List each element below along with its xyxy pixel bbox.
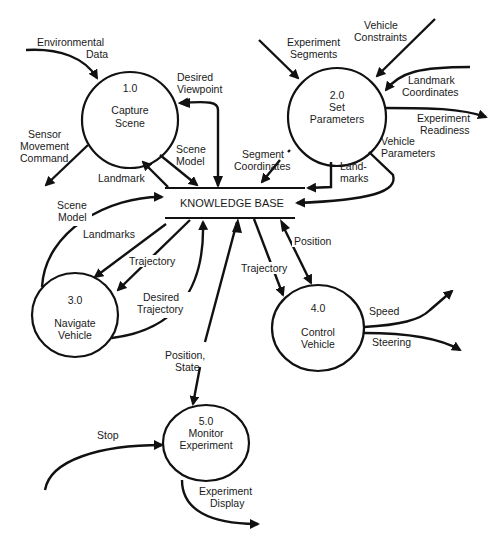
svg-text:Data: Data xyxy=(86,48,108,60)
svg-text:Model: Model xyxy=(58,211,87,223)
svg-text:Constraints: Constraints xyxy=(354,31,407,43)
svg-text:Coordinates: Coordinates xyxy=(234,160,291,172)
svg-text:Vehicle: Vehicle xyxy=(364,19,398,31)
process-name-line1: Set xyxy=(329,101,345,113)
process-name-line2: Vehicle xyxy=(58,329,92,341)
flow-scene-model-from-3: Scene Model xyxy=(42,197,162,287)
svg-text:Position: Position xyxy=(294,235,332,247)
svg-text:Desired: Desired xyxy=(177,71,213,83)
svg-text:Parameters: Parameters xyxy=(381,147,435,159)
knowledge-base-store[interactable]: KNOWLEDGE BASE xyxy=(165,188,305,218)
svg-text:Command: Command xyxy=(20,152,69,164)
svg-text:Display: Display xyxy=(210,497,245,509)
flow-vehicle-constraints: Vehicle Constraints xyxy=(354,19,435,76)
process-name-line2: Vehicle xyxy=(301,338,335,350)
svg-text:Vehicle: Vehicle xyxy=(381,135,415,147)
svg-text:Viewpoint: Viewpoint xyxy=(177,83,222,95)
svg-text:marks: marks xyxy=(340,172,369,184)
process-name-line2: Experiment xyxy=(179,439,232,451)
svg-text:Stop: Stop xyxy=(97,429,119,441)
process-name-line1: Navigate xyxy=(54,317,96,329)
process-name-line2: Scene xyxy=(115,117,145,129)
svg-text:Scene: Scene xyxy=(57,199,87,211)
process-name-line1: Capture xyxy=(111,104,149,116)
process-name-line2: Parameters xyxy=(310,113,364,125)
svg-text:Readiness: Readiness xyxy=(420,124,470,136)
flow-experiment-display: Experiment Display xyxy=(182,480,258,524)
svg-text:Trajectory: Trajectory xyxy=(137,303,184,315)
svg-text:Speed: Speed xyxy=(369,305,400,317)
process-4-control-vehicle[interactable]: 4.0 Control Vehicle xyxy=(272,285,364,371)
flow-sensor-movement-command: Sensor Movement Command xyxy=(20,128,88,185)
svg-text:Environmental: Environmental xyxy=(37,36,104,48)
flow-steering: Steering xyxy=(364,333,460,350)
svg-text:Landmarks: Landmarks xyxy=(83,228,135,240)
flow-stop: Stop xyxy=(45,429,162,490)
svg-text:Position,: Position, xyxy=(165,349,205,361)
svg-text:Segment: Segment xyxy=(242,148,284,160)
flow-environmental-data: Environmental Data xyxy=(26,36,108,78)
svg-text:State: State xyxy=(175,361,200,373)
flow-speed: Speed xyxy=(364,291,452,327)
flow-experiment-readiness: Experiment Readiness xyxy=(386,108,486,136)
process-id: 2.0 xyxy=(330,89,345,101)
svg-text:Steering: Steering xyxy=(372,336,411,348)
process-1-capture-scene[interactable]: 1.0 Capture Scene xyxy=(82,72,178,168)
process-2-set-parameters[interactable]: 2.0 Set Parameters xyxy=(288,68,386,166)
svg-text:Coordinates: Coordinates xyxy=(402,86,459,98)
svg-text:Land-: Land- xyxy=(340,160,367,172)
process-name-line1: Control xyxy=(301,326,335,338)
svg-text:Landmark: Landmark xyxy=(98,172,145,184)
svg-text:Trajectory: Trajectory xyxy=(129,255,176,267)
svg-text:Experiment: Experiment xyxy=(287,36,340,48)
svg-text:Model: Model xyxy=(176,155,205,167)
svg-text:Landmark: Landmark xyxy=(408,74,455,86)
flow-segment-coordinates: Segment Coordinates xyxy=(234,148,291,182)
process-name-line1: Monitor xyxy=(188,427,224,439)
flow-desired-viewpoint: Desired Viewpoint xyxy=(177,71,223,188)
svg-text:Trajectory: Trajectory xyxy=(241,262,288,274)
svg-text:Experiment: Experiment xyxy=(199,485,252,497)
flow-landmarks-to-3: Landmarks xyxy=(80,224,166,277)
process-id: 1.0 xyxy=(123,82,138,94)
knowledge-base-label: KNOWLEDGE BASE xyxy=(180,197,284,209)
process-5-monitor-experiment[interactable]: 5.0 Monitor Experiment xyxy=(163,405,249,481)
svg-text:Movement: Movement xyxy=(20,140,69,152)
flow-landmark-coordinates: Landmark Coordinates xyxy=(386,67,470,98)
process-id: 3.0 xyxy=(68,294,83,306)
process-3-navigate-vehicle[interactable]: 3.0 Navigate Vehicle xyxy=(32,273,118,357)
svg-text:Sensor: Sensor xyxy=(28,128,62,140)
process-id: 4.0 xyxy=(311,302,326,314)
svg-text:Experiment: Experiment xyxy=(417,112,470,124)
process-id: 5.0 xyxy=(199,415,214,427)
svg-text:Scene: Scene xyxy=(176,143,206,155)
data-flow-diagram: KNOWLEDGE BASE 1.0 Capture Scene 2.0 Set… xyxy=(0,0,499,544)
svg-text:Desired: Desired xyxy=(143,291,179,303)
svg-text:Segments: Segments xyxy=(290,48,337,60)
